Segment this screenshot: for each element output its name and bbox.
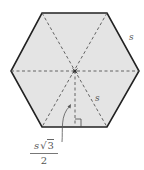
numerator-variable: s [34, 140, 39, 151]
apothem-numerator: s √3 [30, 139, 58, 151]
radicand: 3 [47, 139, 54, 151]
side-length-label: s [129, 33, 134, 42]
radius-label: s [95, 94, 100, 103]
fraction-bar [30, 153, 58, 154]
hexagon-figure: s s s √3 2 [0, 0, 144, 170]
hexagon-diagram [0, 0, 144, 170]
apothem-denominator: 2 [30, 155, 58, 166]
apothem-formula: s √3 2 [30, 139, 58, 166]
